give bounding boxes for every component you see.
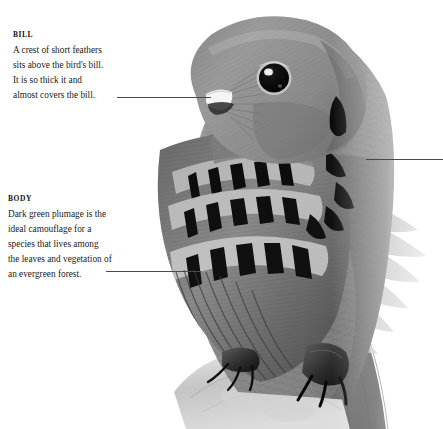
callout-body: BODY Dark green plumage is the ideal cam… — [8, 194, 148, 282]
callout-body-body: Dark green plumage is the ideal camoufla… — [8, 207, 148, 282]
illustration-page: BILL A crest of short feathers sits abov… — [0, 0, 443, 429]
bird-photograph — [150, 0, 443, 429]
callout-bill-heading: BILL — [13, 30, 141, 40]
callout-bill: BILL A crest of short feathers sits abov… — [13, 30, 141, 103]
callout-body-heading: BODY — [8, 194, 148, 204]
callout-bill-body: A crest of short feathers sits above the… — [13, 43, 141, 103]
leader-line-right — [366, 159, 443, 160]
